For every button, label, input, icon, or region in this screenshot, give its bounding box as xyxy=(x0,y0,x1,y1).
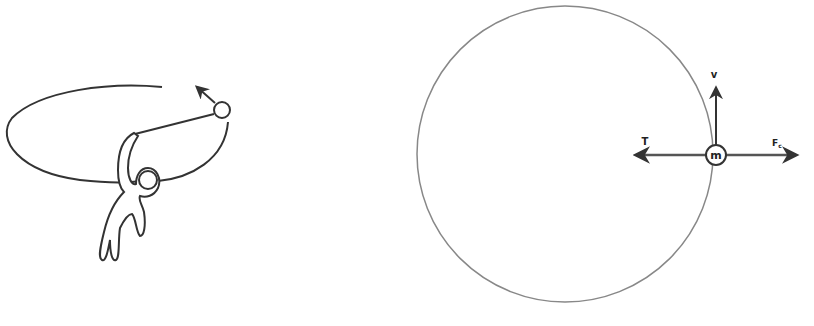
ball xyxy=(214,102,230,118)
left-figure xyxy=(7,86,230,261)
ball-velocity-arrow xyxy=(197,87,215,103)
force-label-subscript: c xyxy=(778,142,782,149)
string xyxy=(135,114,214,134)
orbit-path-right xyxy=(158,122,228,181)
diagram-canvas: m v T Fc xyxy=(0,0,814,326)
person-figure xyxy=(100,133,159,260)
tension-label: T xyxy=(642,136,649,147)
velocity-label: v xyxy=(711,69,718,80)
force-label: Fc xyxy=(772,138,782,149)
person-head xyxy=(139,171,157,189)
right-figure: m v T Fc xyxy=(417,6,796,302)
mass-label: m xyxy=(710,149,721,162)
